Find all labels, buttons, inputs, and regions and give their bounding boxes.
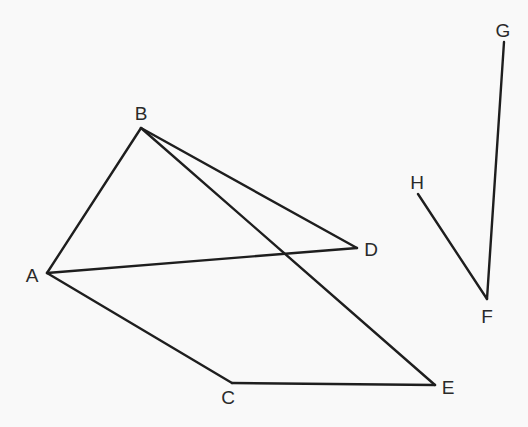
diagram-canvas: ABCDEFGH: [0, 0, 528, 427]
segment-ad: [47, 248, 357, 273]
point-label-a: A: [26, 265, 39, 286]
segment-ab: [47, 128, 141, 273]
segment-be: [141, 128, 435, 385]
point-label-e: E: [442, 377, 455, 398]
segment-ac: [47, 273, 232, 383]
point-label-f: F: [481, 306, 493, 327]
segment-ce: [232, 383, 435, 385]
point-label-c: C: [221, 387, 235, 408]
segment-bd: [141, 128, 357, 248]
geometric-figure: ABCDEFGH: [0, 0, 528, 427]
segment-fg: [487, 42, 504, 299]
point-label-b: B: [135, 103, 148, 124]
label-group: ABCDEFGH: [26, 20, 511, 408]
point-label-h: H: [410, 172, 424, 193]
edge-group: [47, 42, 504, 385]
segment-hf: [418, 194, 487, 299]
point-label-g: G: [496, 20, 511, 41]
point-label-d: D: [364, 239, 378, 260]
